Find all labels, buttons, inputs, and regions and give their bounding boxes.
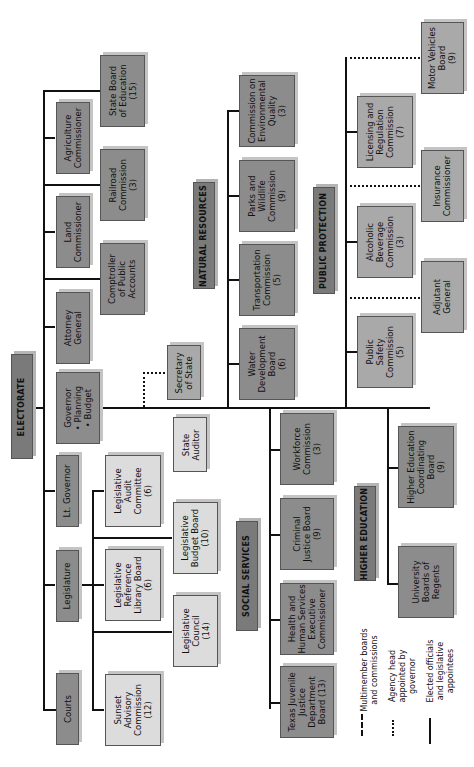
legend-dashed-line-icon <box>361 714 363 736</box>
node-alcoholic-beverage-commission: Alcoholic Beverage Commission (3) <box>357 206 413 278</box>
legend-multimember: Multimember boards and commissions <box>355 628 385 712</box>
connector <box>227 363 239 365</box>
legend-agency-head: Agency head appointed by governor <box>385 638 421 714</box>
node-higher-ed-coordinating-board: Higher Education Coordinating Board (9) <box>398 426 454 508</box>
connector <box>43 709 57 711</box>
header-natural-resources: NATURAL RESOURCES <box>193 182 215 289</box>
node-governor: Governor • Planning • Budget <box>56 372 100 444</box>
legend-solid-line-icon <box>429 718 431 744</box>
node-legislative-audit-committee: Legislative Audit Committee (6) <box>105 455 161 527</box>
connector <box>43 231 55 233</box>
connector <box>43 90 45 710</box>
node-juvenile-justice-board: Texas Juvenile Justice Department Board … <box>280 666 334 738</box>
legend: Multimember boards and commissions Agenc… <box>355 628 465 758</box>
connector <box>345 131 357 133</box>
connector <box>43 278 100 280</box>
node-criminal-justice-board: Criminal Justice Board (9) <box>280 498 334 570</box>
node-courts: Courts <box>56 673 79 745</box>
node-parks-wildlife-commission: Parks and Wildlife Commission (9) <box>239 160 295 232</box>
node-secretary-of-state: Secretary of State <box>167 345 201 400</box>
node-legislative-library-board: Legislative Reference Library Board (6) <box>105 549 161 621</box>
node-agriculture-commissioner: Agriculture Commissioner <box>56 102 90 174</box>
node-workforce-commission: Workforce Commission (3) <box>280 413 334 485</box>
connector <box>345 241 357 243</box>
connector <box>92 709 104 711</box>
connector <box>78 584 93 586</box>
node-licensing-regulation-commission: Licensing and Regulation Commission (7) <box>357 96 413 168</box>
node-insurance-commissioner: Insurance Commissioner <box>421 150 464 222</box>
connector <box>92 537 172 539</box>
node-sunset-commission: Sunset Advisory Commission (12) <box>105 674 161 746</box>
legend-elected: Elected officials and legislative appoin… <box>421 628 461 714</box>
node-university-boards-of-regents: University Boards of Regents <box>398 546 454 618</box>
connector <box>143 372 165 374</box>
legend-dotted-line-icon <box>392 720 394 736</box>
electorate-label: ELECTORATE <box>17 377 27 436</box>
connector <box>387 407 389 583</box>
connector <box>92 490 94 710</box>
node-transportation-commission: Transportation Commission (5) <box>239 244 295 316</box>
connector <box>92 631 172 633</box>
header-higher-education: HIGHER EDUCATION <box>354 486 376 581</box>
connector <box>43 184 100 186</box>
connector <box>92 490 104 492</box>
electorate-node: ELECTORATE <box>11 354 33 459</box>
node-attorney-general: Attorney General <box>56 292 90 364</box>
connector <box>345 297 420 299</box>
node-public-safety-commission: Public Safety Commission (5) <box>357 316 413 388</box>
connector <box>345 57 420 59</box>
node-state-board-of-education: State Board of Education (15) <box>100 55 145 127</box>
connector <box>100 407 430 409</box>
connector <box>227 195 239 197</box>
node-adjutant-general: Adjutant General <box>421 261 464 333</box>
node-legislature: Legislature <box>56 550 79 622</box>
node-environmental-quality: Commission on Environmental Quality (3) <box>239 75 295 147</box>
connector <box>43 490 55 492</box>
connector <box>227 110 239 112</box>
connector <box>269 407 271 709</box>
connector <box>143 372 145 407</box>
node-health-human-services: Health and Human Services Executive Comm… <box>280 583 334 655</box>
connector <box>43 137 55 139</box>
connector <box>92 584 104 586</box>
connector <box>43 584 55 586</box>
connector <box>43 90 100 92</box>
connector <box>345 185 420 187</box>
header-social-services: SOCIAL SERVICES <box>236 521 258 631</box>
node-water-development-board: Water Development Board (6) <box>239 328 295 400</box>
connector <box>345 57 347 407</box>
node-legislative-council: Legislative Council (14) <box>173 595 218 667</box>
node-state-auditor: State Auditor <box>173 417 207 472</box>
node-motor-vehicles-board: Motor Vehicles Board (9) <box>421 22 464 94</box>
connector <box>345 351 357 353</box>
node-legislative-budget-board: Legislative Budget Board (10) <box>173 502 218 574</box>
header-public-protection: PUBLIC PROTECTION <box>313 187 335 294</box>
node-land-commissioner: Land Commissioner <box>56 196 90 268</box>
node-comptroller: Comptroller of Public Accounts <box>100 243 145 315</box>
connector <box>227 279 239 281</box>
connector <box>43 326 55 328</box>
node-lt-governor: Lt. Governor <box>56 455 79 527</box>
node-railroad-commission: Railroad Commission (3) <box>100 149 145 221</box>
